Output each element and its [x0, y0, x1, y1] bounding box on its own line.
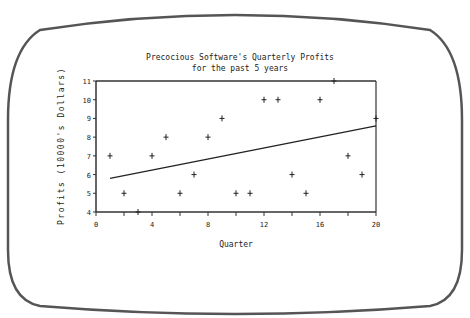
y-tick-label: 7 [87, 153, 91, 161]
data-point-plus-icon [150, 153, 155, 159]
data-point-plus-icon [164, 134, 169, 140]
x-tick-label: 12 [260, 221, 268, 229]
data-point-plus-icon [332, 78, 337, 84]
data-point-plus-icon [234, 190, 239, 196]
plot-area: 0481216204567891011 [83, 78, 381, 229]
y-tick-label: 11 [83, 78, 91, 86]
data-point-plus-icon [108, 153, 113, 159]
y-tick-label: 4 [87, 209, 91, 217]
data-point-plus-icon [248, 190, 253, 196]
data-point-plus-icon [220, 115, 225, 121]
x-tick-label: 20 [372, 221, 380, 229]
y-axis-label: Profits (10000's Dollars) [57, 67, 66, 225]
data-point-plus-icon [276, 97, 281, 103]
x-tick-label: 8 [206, 221, 210, 229]
data-point-plus-icon [360, 172, 365, 178]
chart-subtitle: for the past 5 years [192, 64, 289, 73]
x-axis-label: Quarter [219, 240, 253, 249]
crt-screen: Precocious Software's Quarterly Profits … [0, 0, 470, 318]
data-point-plus-icon [206, 134, 211, 140]
x-tick-label: 4 [150, 221, 154, 229]
data-point-plus-icon [122, 190, 127, 196]
data-point-plus-icon [192, 172, 197, 178]
data-point-plus-icon [290, 172, 295, 178]
x-tick-label: 16 [316, 221, 324, 229]
y-tick-label: 5 [87, 190, 91, 198]
data-point-plus-icon [136, 209, 141, 215]
data-point-plus-icon [374, 115, 379, 121]
data-point-plus-icon [346, 153, 351, 159]
y-tick-label: 9 [87, 115, 91, 123]
y-tick-label: 8 [87, 134, 91, 142]
x-tick-label: 0 [94, 221, 98, 229]
y-tick-label: 6 [87, 172, 91, 180]
trend-line [110, 126, 376, 178]
data-point-plus-icon [262, 97, 267, 103]
y-tick-label: 10 [83, 97, 91, 105]
data-point-plus-icon [178, 190, 183, 196]
chart-title: Precocious Software's Quarterly Profits [146, 53, 334, 62]
data-point-plus-icon [318, 97, 323, 103]
data-point-plus-icon [304, 190, 309, 196]
